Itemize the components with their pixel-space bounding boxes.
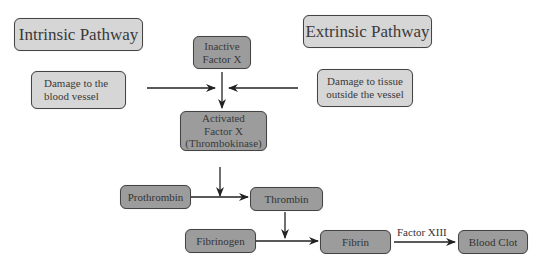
thrombin-box: Thrombin (250, 187, 323, 211)
blood-clot-label: Blood Clot (469, 236, 518, 249)
activated-factor-x-box: Activated Factor X (Thrombokinase) (180, 111, 267, 151)
inactive-factor-x-box: Inactive Factor X (193, 36, 251, 69)
intrinsic-pathway-box: Intrinsic Pathway (14, 18, 143, 51)
factor-xiii-edge-label: Factor XIII (397, 226, 447, 238)
intrinsic-trigger-box: Damage to the blood vessel (31, 71, 126, 109)
inactive-factor-x-line2: Factor X (203, 53, 242, 66)
blood-clot-box: Blood Clot (458, 230, 528, 254)
intrinsic-trigger-line2: blood vessel (44, 90, 108, 103)
prothrombin-box: Prothrombin (120, 185, 191, 209)
fibrinogen-label: Fibrinogen (196, 235, 244, 248)
inactive-factor-x-line1: Inactive (203, 40, 242, 53)
fibrin-label: Fibrin (342, 236, 369, 249)
activated-factor-x-line3: (Thrombokinase) (185, 137, 261, 150)
prothrombin-label: Prothrombin (128, 191, 184, 204)
activated-factor-x-line1: Activated (185, 112, 261, 125)
intrinsic-trigger-line1: Damage to the (44, 77, 108, 90)
extrinsic-pathway-box: Extrinsic Pathway (303, 15, 432, 48)
extrinsic-pathway-label: Extrinsic Pathway (305, 22, 429, 42)
fibrinogen-box: Fibrinogen (185, 229, 256, 253)
extrinsic-trigger-box: Damage to tissue outside the vessel (317, 69, 413, 107)
extrinsic-trigger-line2: outside the vessel (326, 88, 404, 101)
extrinsic-trigger-line1: Damage to tissue (326, 75, 404, 88)
activated-factor-x-line2: Factor X (185, 125, 261, 138)
fibrin-box: Fibrin (320, 230, 391, 254)
intrinsic-pathway-label: Intrinsic Pathway (19, 25, 138, 45)
thrombin-label: Thrombin (265, 193, 309, 206)
